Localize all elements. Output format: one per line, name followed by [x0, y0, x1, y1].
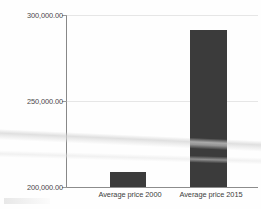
gridline-250000 — [67, 101, 258, 102]
gridline-300000 — [67, 15, 258, 16]
y-tick-label-200000: 200,000.00 — [3, 183, 63, 192]
x-category-label-0: Average price 2000 — [85, 190, 175, 199]
bar-chart: 300,000.00 250,000.00 200,000.00 Average… — [0, 0, 261, 209]
x-axis-line — [66, 187, 258, 188]
bar-average-price-2000[interactable] — [110, 172, 146, 187]
y-tick-label-300000: 300,000.00 — [3, 11, 63, 20]
bar-average-price-2015[interactable] — [190, 30, 227, 187]
x-category-label-1: Average price 2015 — [165, 190, 257, 199]
chart-page: 300,000.00 250,000.00 200,000.00 Average… — [0, 0, 261, 209]
y-tick-label-250000: 250,000.00 — [3, 97, 63, 106]
